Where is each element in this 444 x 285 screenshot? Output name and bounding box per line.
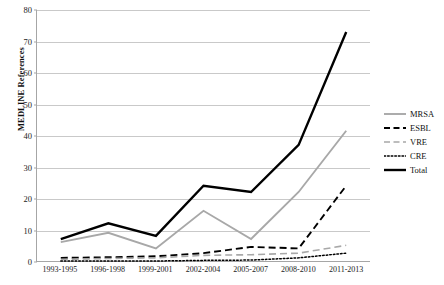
- line-chart: MEDLINE References 01020304050607080 199…: [0, 0, 444, 285]
- y-tick-label: 20: [24, 194, 33, 204]
- y-tick-mark: [34, 262, 37, 263]
- series-lines: [37, 10, 370, 261]
- x-axis-labels: 1993-19951996-19981999-20012002-20042005…: [36, 265, 370, 281]
- series-line-mrsa: [61, 131, 346, 249]
- x-tick-label: 1993-1995: [43, 265, 78, 274]
- legend-swatch-icon: [384, 151, 406, 161]
- series-line-esbl: [61, 186, 346, 258]
- legend-label: ESBL: [410, 124, 431, 133]
- legend-label: CRE: [410, 152, 427, 161]
- series-line-cre: [61, 253, 346, 261]
- y-tick-label: 0: [28, 257, 32, 267]
- plot-area: 01020304050607080: [36, 10, 370, 262]
- y-tick-label: 50: [24, 100, 33, 110]
- legend-label: MRSA: [410, 110, 434, 119]
- series-line-total: [61, 32, 346, 239]
- x-tick-label: 1999-2001: [138, 265, 173, 274]
- x-tick-label: 2005-2007: [233, 265, 268, 274]
- legend-swatch-icon: [384, 137, 406, 147]
- legend-label: VRE: [410, 138, 427, 147]
- legend-label: Total: [410, 166, 427, 175]
- legend-item-esbl[interactable]: ESBL: [384, 121, 442, 135]
- x-tick-label: 1996-1998: [90, 265, 125, 274]
- y-tick-label: 40: [24, 131, 33, 141]
- x-tick-label: 2011-2013: [329, 265, 363, 274]
- y-tick-label: 60: [24, 68, 33, 78]
- legend-item-total[interactable]: Total: [384, 163, 442, 177]
- x-tick-label: 2002-2004: [186, 265, 221, 274]
- legend-item-vre[interactable]: VRE: [384, 135, 442, 149]
- legend-item-mrsa[interactable]: MRSA: [384, 107, 442, 121]
- legend-swatch-icon: [384, 165, 406, 175]
- y-tick-label: 30: [24, 163, 33, 173]
- legend-item-cre[interactable]: CRE: [384, 149, 442, 163]
- x-tick-label: 2008-2010: [281, 265, 316, 274]
- y-tick-label: 80: [24, 5, 33, 15]
- chart-legend: MRSAESBLVRECRETotal: [384, 107, 442, 177]
- y-tick-label: 10: [24, 226, 33, 236]
- legend-swatch-icon: [384, 123, 406, 133]
- y-tick-label: 70: [24, 37, 33, 47]
- legend-swatch-icon: [384, 109, 406, 119]
